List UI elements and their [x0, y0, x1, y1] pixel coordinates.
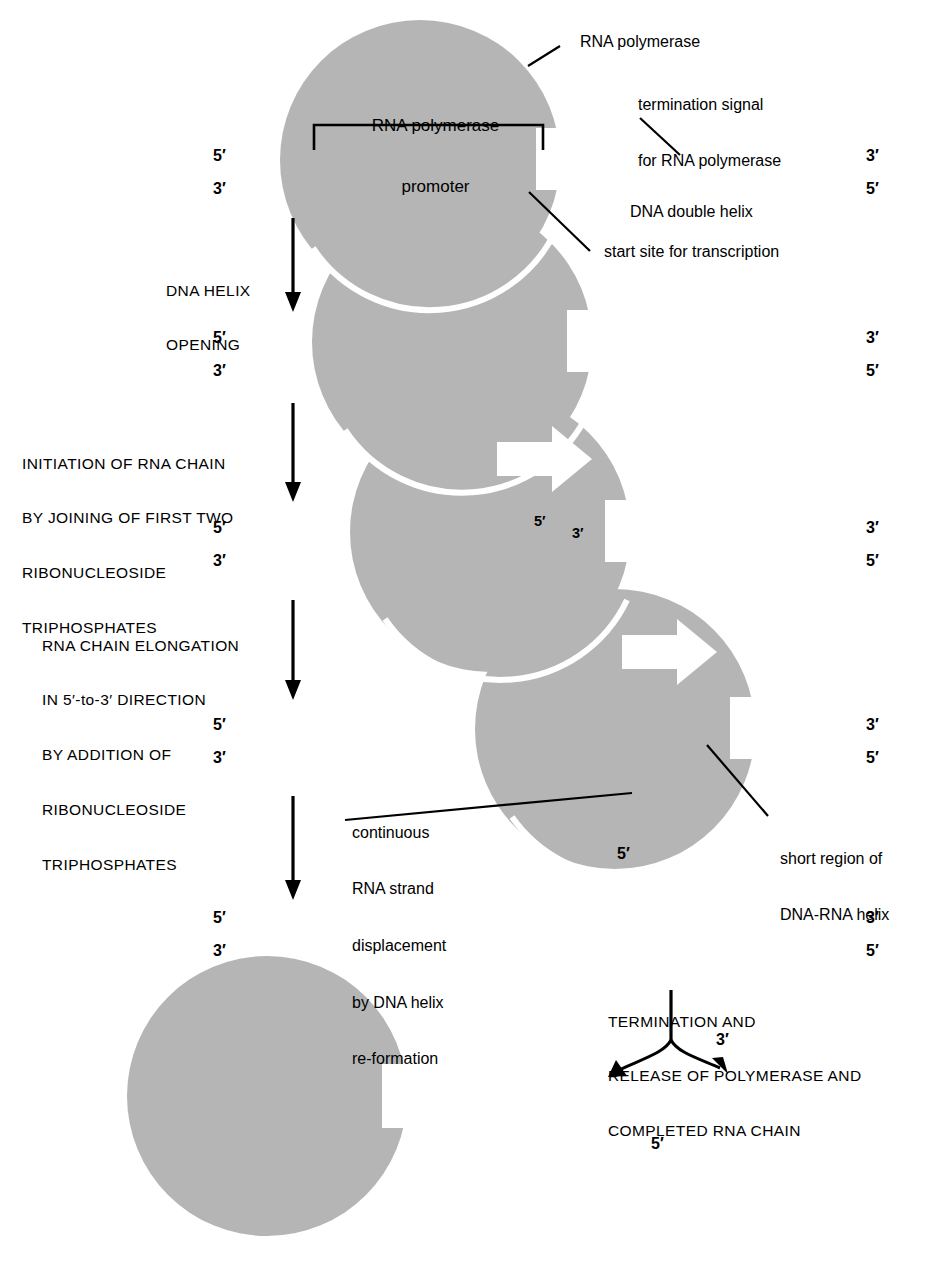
row2-left-top-prime: 5′	[213, 329, 226, 348]
label-short-region-line1: short region of	[780, 850, 889, 869]
row1-left-top-prime: 5′	[213, 147, 226, 166]
row2-left-bottom-prime: 3′	[213, 362, 226, 381]
label-continuous-line5: re-formation	[352, 1050, 446, 1069]
label-dna-double-helix: DNA double helix	[630, 203, 753, 222]
row4-right-top-prime: 3′	[866, 716, 879, 735]
row1-right-top-prime: 3′	[866, 147, 879, 166]
released-rna-three-prime: 3′	[716, 1031, 729, 1050]
label-termination-signal-line1: termination signal	[638, 96, 781, 115]
row5-left-top-prime: 5′	[213, 909, 226, 928]
label-continuous-line2: RNA strand	[352, 880, 446, 899]
label-continuous-line3: displacement	[352, 937, 446, 956]
step2-line3: RIBONUCLEOSIDE	[22, 564, 234, 582]
label-start-site: start site for transcription	[604, 243, 779, 262]
step2-line1: INITIATION OF RNA CHAIN	[22, 455, 234, 473]
step-label-dna-helix-opening: DNA HELIX OPENING	[166, 245, 251, 391]
row4-left-bottom-prime: 3′	[213, 749, 226, 768]
label-promoter: RNA polymerase promoter	[328, 75, 543, 238]
step1-line1: DNA HELIX	[166, 282, 251, 300]
step2-line2: BY JOINING OF FIRST TWO	[22, 509, 234, 527]
row3-left-bottom-prime: 3′	[213, 552, 226, 571]
figure-canvas: RNA polymerase RNA polymerase promoter t…	[0, 0, 939, 1270]
row4-right-bottom-prime: 5′	[866, 749, 879, 768]
label-continuous-line4: by DNA helix	[352, 994, 446, 1013]
row1-left-bottom-prime: 3′	[213, 180, 226, 199]
step-label-termination: TERMINATION AND RELEASE OF POLYMERASE AN…	[608, 976, 861, 1177]
label-short-region: short region of DNA-RNA helix	[780, 812, 889, 963]
leader-rna-polymerase	[528, 46, 560, 66]
row3-right-top-prime: 3′	[866, 519, 879, 538]
step3-line3: BY ADDITION OF	[42, 746, 239, 764]
leader-short-region	[707, 745, 768, 816]
label-termination-signal: termination signal for RNA polymerase	[638, 58, 781, 209]
step3-line2: IN 5′-to-3′ DIRECTION	[42, 691, 239, 709]
label-promoter-line2: promoter	[328, 177, 543, 197]
released-rna-five-prime: 5′	[651, 1135, 664, 1154]
row4-rna-five-prime: 5′	[617, 845, 630, 864]
row3-rna-five-prime: 5′	[534, 513, 546, 530]
step4-line3: COMPLETED RNA CHAIN	[608, 1122, 861, 1140]
step3-line5: TRIPHOSPHATES	[42, 856, 239, 874]
label-continuous-displacement: continuous RNA strand displacement by DN…	[352, 786, 446, 1107]
step-label-elongation: RNA CHAIN ELONGATION IN 5′-to-3′ DIRECTI…	[42, 600, 239, 911]
step3-line1: RNA CHAIN ELONGATION	[42, 637, 239, 655]
step4-line2: RELEASE OF POLYMERASE AND	[608, 1067, 861, 1085]
row2-right-top-prime: 3′	[866, 329, 879, 348]
row1-right-bottom-prime: 5′	[866, 180, 879, 199]
row5-left-bottom-prime: 3′	[213, 942, 226, 961]
label-continuous-line1: continuous	[352, 824, 446, 843]
step1-line2: OPENING	[166, 336, 251, 354]
row3-rna-three-prime: 3′	[572, 525, 584, 542]
row3-right-bottom-prime: 5′	[866, 552, 879, 571]
label-promoter-line1: RNA polymerase	[328, 116, 543, 136]
label-termination-signal-line2: for RNA polymerase	[638, 152, 781, 171]
row2-right-bottom-prime: 5′	[866, 362, 879, 381]
row3-left-top-prime: 5′	[213, 519, 226, 538]
step4-line1: TERMINATION AND	[608, 1013, 861, 1031]
step3-line4: RIBONUCLEOSIDE	[42, 801, 239, 819]
row5-right-top-prime: 3′	[866, 909, 879, 928]
row4-left-top-prime: 5′	[213, 716, 226, 735]
row5-right-bottom-prime: 5′	[866, 942, 879, 961]
label-rna-polymerase: RNA polymerase	[580, 33, 700, 52]
